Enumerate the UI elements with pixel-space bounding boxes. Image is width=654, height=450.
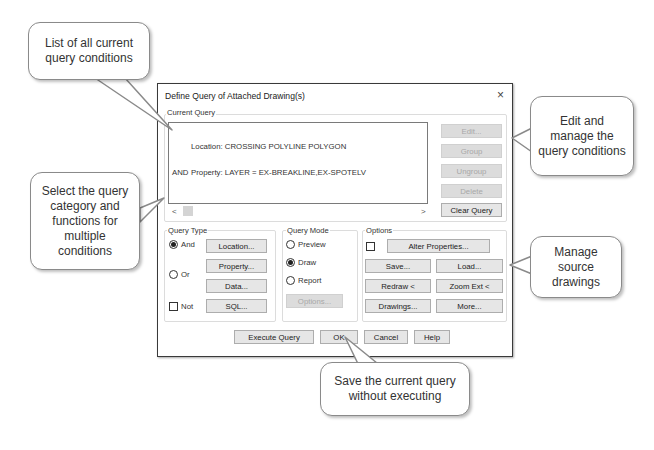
and-radio-indicator[interactable] [169, 240, 178, 249]
current-query-label: Current Query [166, 108, 216, 117]
save-button[interactable]: Save... [365, 259, 431, 273]
drawings-button[interactable]: Drawings... [365, 299, 431, 313]
not-checkbox-box[interactable] [169, 302, 178, 311]
alter-properties-button[interactable]: Alter Properties... [387, 239, 490, 253]
redraw-button[interactable]: Redraw < [365, 279, 431, 293]
more-button[interactable]: More... [436, 299, 503, 313]
and-radio[interactable]: And [169, 240, 195, 249]
callout-query-type: Select the query category and functions … [30, 172, 140, 270]
data-button[interactable]: Data... [206, 279, 267, 293]
not-checkbox-label: Not [181, 302, 193, 311]
edit-button[interactable]: Edit... [441, 124, 502, 138]
query-condition-text: Location: CROSSING POLYLINE POLYGON [191, 143, 346, 152]
preview-radio-indicator[interactable] [286, 240, 295, 249]
report-radio-indicator[interactable] [286, 276, 295, 285]
preview-radio-label: Preview [298, 240, 326, 249]
load-button[interactable]: Load... [436, 259, 503, 273]
cancel-button[interactable]: Cancel [364, 330, 408, 344]
preview-radio[interactable]: Preview [286, 240, 326, 249]
and-radio-label: And [181, 240, 195, 249]
draw-radio[interactable]: Draw [286, 258, 316, 267]
callout-manage-drawings: Manage source drawings [530, 236, 622, 298]
title-bar: Define Query of Attached Drawing(s) × [158, 84, 512, 106]
delete-button[interactable]: Delete [441, 184, 502, 198]
or-radio[interactable]: Or [169, 270, 190, 279]
report-radio[interactable]: Report [286, 276, 321, 285]
zoom-ext-button[interactable]: Zoom Ext < [436, 279, 503, 293]
callout-query-list: List of all current query conditions [28, 22, 150, 80]
or-radio-label: Or [181, 270, 190, 279]
options-button[interactable]: Options... [286, 294, 343, 308]
draw-radio-label: Draw [298, 258, 316, 267]
horizontal-scrollbar-thumb[interactable] [183, 206, 193, 216]
not-checkbox[interactable]: Not [169, 302, 193, 311]
draw-radio-indicator[interactable] [286, 258, 295, 267]
query-condition-row[interactable]: AND Property: LAYER = EX-BREAKLINE,EX-SP… [172, 169, 424, 178]
options-label: Options [365, 226, 393, 235]
clear-query-button[interactable]: Clear Query [441, 203, 502, 217]
query-operator [172, 143, 191, 152]
query-conditions-list[interactable]: Location: CROSSING POLYLINE POLYGON AND … [168, 122, 428, 204]
ungroup-button[interactable]: Ungroup [441, 164, 502, 178]
define-query-dialog: Define Query of Attached Drawing(s) × Cu… [157, 83, 513, 357]
scroll-left-arrow-icon[interactable]: < [172, 207, 177, 216]
alter-properties-checkbox[interactable] [366, 242, 375, 251]
callout-edit-conditions: Edit and manage the query conditions [530, 96, 634, 176]
execute-query-button[interactable]: Execute Query [234, 330, 314, 344]
query-operator: AND [172, 169, 191, 178]
dialog-title: Define Query of Attached Drawing(s) [165, 91, 305, 101]
query-condition-row[interactable]: Location: CROSSING POLYLINE POLYGON [172, 143, 424, 152]
help-button[interactable]: Help [414, 330, 450, 344]
or-radio-indicator[interactable] [169, 270, 178, 279]
query-type-label: Query Type [167, 226, 208, 235]
close-icon[interactable]: × [497, 88, 504, 102]
group-button[interactable]: Group [441, 144, 502, 158]
query-mode-label: Query Mode [286, 226, 330, 235]
callout-ok-save: Save the current query without executing [320, 362, 470, 416]
ok-button[interactable]: OK [320, 330, 358, 344]
location-button[interactable]: Location... [206, 239, 267, 253]
query-condition-text: Property: LAYER = EX-BREAKLINE,EX-SPOTEL… [191, 169, 366, 178]
report-radio-label: Report [298, 276, 321, 285]
property-button[interactable]: Property... [206, 259, 267, 273]
scroll-right-arrow-icon[interactable]: > [421, 207, 426, 216]
sql-button[interactable]: SQL... [206, 299, 267, 313]
